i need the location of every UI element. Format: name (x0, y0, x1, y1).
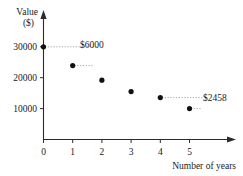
x-tick-label-5: 5 (187, 147, 192, 157)
chart-canvas: 10000 20000 30000 0 1 2 3 4 5 Value ($) … (0, 0, 243, 176)
y-axis-title-line1: Value (16, 7, 38, 17)
depreciation-scatter-chart: 10000 20000 30000 0 1 2 3 4 5 Value ($) … (0, 0, 243, 176)
y-tick-label-10000: 10000 (13, 104, 37, 114)
data-point-year-3 (129, 89, 134, 94)
y-axis-title-line2: ($) (23, 18, 34, 29)
data-points (41, 44, 192, 111)
y-tick-label-30000: 30000 (13, 42, 37, 52)
x-axis-title: Number of years (172, 161, 236, 171)
x-tick-label-1: 1 (70, 147, 75, 157)
data-point-year-1 (70, 63, 75, 68)
x-tick-label-3: 3 (129, 147, 134, 157)
x-tick-label-2: 2 (100, 147, 105, 157)
data-point-year-4 (158, 95, 163, 100)
x-tick-label-4: 4 (158, 147, 163, 157)
data-point-year-0 (41, 44, 46, 49)
y-tick-label-20000: 20000 (13, 73, 37, 83)
y-axis (40, 10, 46, 140)
y-axis-arrow-icon (40, 10, 46, 19)
annotation-6000: $6000 (80, 40, 104, 50)
data-point-year-2 (99, 78, 104, 83)
x-axis-arrow-icon (227, 136, 236, 142)
annotation-2458: $2458 (203, 93, 227, 103)
data-point-year-5 (187, 106, 192, 111)
annotation-leader-lines (45, 47, 204, 109)
x-tick-label-0: 0 (41, 147, 46, 157)
